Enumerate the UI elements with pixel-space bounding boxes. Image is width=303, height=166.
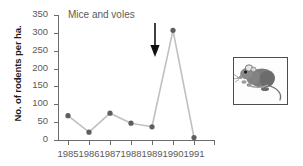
x-tick-1988 <box>131 140 132 145</box>
x-tick-1991 <box>194 140 195 145</box>
x-tick-1986 <box>89 140 90 145</box>
x-tick-label-1988: 1988 <box>120 148 141 159</box>
x-tick-label-1990: 1990 <box>162 148 183 159</box>
x-tick-1985 <box>68 140 69 145</box>
x-tick-end <box>214 140 215 145</box>
x-tick-1990 <box>173 140 174 145</box>
x-tick-label-1989: 1989 <box>141 148 162 159</box>
rodent-population-figure: No. of rodents per ha. Mice and voles 35… <box>0 0 303 166</box>
x-tick-1987 <box>110 140 111 145</box>
x-tick-label-1991: 1991 <box>183 148 204 159</box>
y-tick-label-200: 200 <box>32 62 48 73</box>
mouse-figure-icon <box>234 58 287 104</box>
x-tick-label-1986: 1986 <box>78 148 99 159</box>
y-tick-label-0: 0 <box>43 133 48 144</box>
y-tick-label-100: 100 <box>32 97 48 108</box>
y-tick-label-300: 300 <box>32 26 48 37</box>
x-tick-label-1985: 1985 <box>57 148 78 159</box>
y-tick-label-350: 350 <box>32 8 48 19</box>
y-tick-label-150: 150 <box>32 79 48 90</box>
y-axis-title: No. of rodents per ha. <box>12 9 23 139</box>
y-tick-label-250: 250 <box>32 44 48 55</box>
wood-mouse-illustration <box>233 57 288 105</box>
x-tick-1989 <box>152 140 153 145</box>
x-axis-line <box>58 140 215 141</box>
plot-area: Mice and voles 350 300 250 200 150 100 5… <box>58 15 215 140</box>
annotation-arrow-icon <box>58 15 215 140</box>
y-tick-label-50: 50 <box>37 115 48 126</box>
x-tick-label-1987: 1987 <box>99 148 120 159</box>
y-tick-0: 0 <box>54 140 59 141</box>
